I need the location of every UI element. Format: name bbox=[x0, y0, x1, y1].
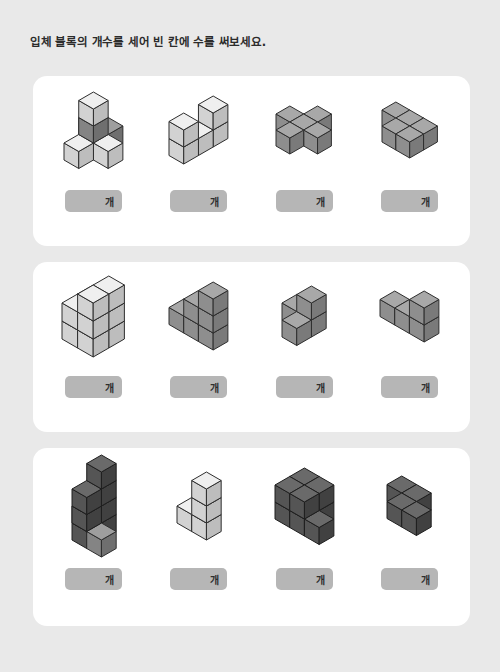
unit-label: 개 bbox=[421, 194, 430, 209]
cube-figure bbox=[61, 89, 126, 172]
answer-input-p5[interactable]: 개 bbox=[65, 376, 122, 398]
cube-figure bbox=[279, 283, 329, 349]
page-title: 입체 블록의 개수를 세어 빈 칸에 수를 써보세요. bbox=[30, 33, 266, 49]
cube-figure bbox=[273, 103, 334, 157]
cube-figure-area bbox=[357, 76, 462, 184]
cube-figure-area bbox=[41, 76, 146, 184]
cube-figure bbox=[174, 469, 224, 543]
cube-figure bbox=[166, 93, 231, 167]
unit-label: 개 bbox=[210, 194, 219, 209]
problem-card-row-1: 개개개개 bbox=[33, 76, 470, 246]
cube-figure bbox=[379, 99, 440, 161]
problem-grid: 개개개개 bbox=[33, 448, 470, 626]
problem-p5: 개 bbox=[41, 262, 146, 432]
problem-p2: 개 bbox=[146, 76, 251, 246]
cube-figure-area bbox=[252, 76, 357, 184]
problem-p9: 개 bbox=[41, 448, 146, 626]
cube-figure-area bbox=[357, 262, 462, 370]
problem-grid: 개개개개 bbox=[33, 262, 470, 432]
cube-figure-area bbox=[357, 448, 462, 564]
answer-input-p8[interactable]: 개 bbox=[381, 376, 438, 398]
unit-label: 개 bbox=[316, 572, 325, 587]
answer-input-p9[interactable]: 개 bbox=[65, 568, 122, 590]
problem-p4: 개 bbox=[357, 76, 462, 246]
problem-p10: 개 bbox=[146, 448, 251, 626]
problem-grid: 개개개개 bbox=[33, 76, 470, 246]
answer-input-p10[interactable]: 개 bbox=[170, 568, 227, 590]
cube-figure-area bbox=[41, 448, 146, 564]
unit-label: 개 bbox=[105, 194, 114, 209]
problem-p12: 개 bbox=[357, 448, 462, 626]
worksheet-page: 입체 블록의 개수를 세어 빈 칸에 수를 써보세요. 개개개개 개개개개 개개… bbox=[0, 0, 500, 672]
answer-input-p6[interactable]: 개 bbox=[170, 376, 227, 398]
answer-input-p1[interactable]: 개 bbox=[65, 190, 122, 212]
problem-p7: 개 bbox=[252, 262, 357, 432]
cube-figure-area bbox=[41, 262, 146, 370]
problem-p6: 개 bbox=[146, 262, 251, 432]
unit-label: 개 bbox=[210, 380, 219, 395]
unit-label: 개 bbox=[316, 380, 325, 395]
cube-figure bbox=[59, 273, 127, 360]
problem-p3: 개 bbox=[252, 76, 357, 246]
problem-p1: 개 bbox=[41, 76, 146, 246]
problem-card-row-2: 개개개개 bbox=[33, 262, 470, 432]
problem-card-row-3: 개개개개 bbox=[33, 448, 470, 626]
answer-input-p7[interactable]: 개 bbox=[276, 376, 333, 398]
unit-label: 개 bbox=[105, 380, 114, 395]
unit-label: 개 bbox=[421, 380, 430, 395]
cube-figure-area bbox=[146, 262, 251, 370]
answer-input-p2[interactable]: 개 bbox=[170, 190, 227, 212]
cube-figure-area bbox=[146, 448, 251, 564]
unit-label: 개 bbox=[421, 572, 430, 587]
answer-input-p11[interactable]: 개 bbox=[276, 568, 333, 590]
answer-input-p4[interactable]: 개 bbox=[381, 190, 438, 212]
cube-figure bbox=[384, 473, 434, 539]
problem-p8: 개 bbox=[357, 262, 462, 432]
cube-figure-area bbox=[252, 262, 357, 370]
unit-label: 개 bbox=[316, 194, 325, 209]
cube-figure bbox=[166, 279, 231, 353]
cube-figure-area bbox=[146, 76, 251, 184]
cube-figure bbox=[272, 465, 337, 548]
problem-p11: 개 bbox=[252, 448, 357, 626]
cube-figure bbox=[69, 452, 119, 560]
cube-figure bbox=[377, 288, 442, 345]
unit-label: 개 bbox=[105, 572, 114, 587]
answer-input-p3[interactable]: 개 bbox=[276, 190, 333, 212]
unit-label: 개 bbox=[210, 572, 219, 587]
answer-input-p12[interactable]: 개 bbox=[381, 568, 438, 590]
cube-figure-area bbox=[252, 448, 357, 564]
